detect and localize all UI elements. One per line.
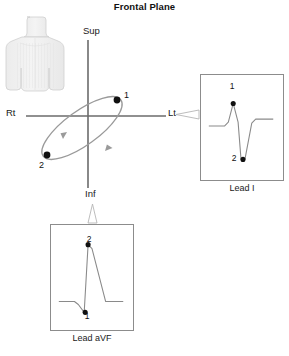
lead-avf-caption: Lead aVF [50,333,134,343]
connector-lead-i [176,110,199,119]
axis-label-superior: Sup [83,25,100,36]
loop-arrow-upper [61,132,68,139]
lead-avf-point-bottom-label: 1 [81,311,93,321]
lead-i-caption: Lead I [200,183,284,193]
lead-i-box [200,74,284,181]
lead-i-point-bottom-label: 2 [228,153,240,163]
frontal-plane-diagram: Frontal Plane [0,0,289,356]
lead-i-point-top-label: 1 [226,81,238,91]
axis-label-inferior: Inf [85,188,96,199]
axis-label-left: Lt [168,107,176,118]
page-title: Frontal Plane [0,1,289,12]
loop-arrow-lower [105,144,113,151]
loop-point-2 [44,152,51,159]
lead-avf-point-top-label: 2 [83,234,95,244]
loop-point-1 [114,97,121,104]
axis-label-right: Rt [6,107,16,118]
torso-figure [4,16,66,100]
connector-lead-avf [88,204,97,223]
loop-point-2-label: 2 [39,160,44,170]
loop-point-1-label: 1 [124,90,129,100]
lead-i-waveform [201,75,283,180]
